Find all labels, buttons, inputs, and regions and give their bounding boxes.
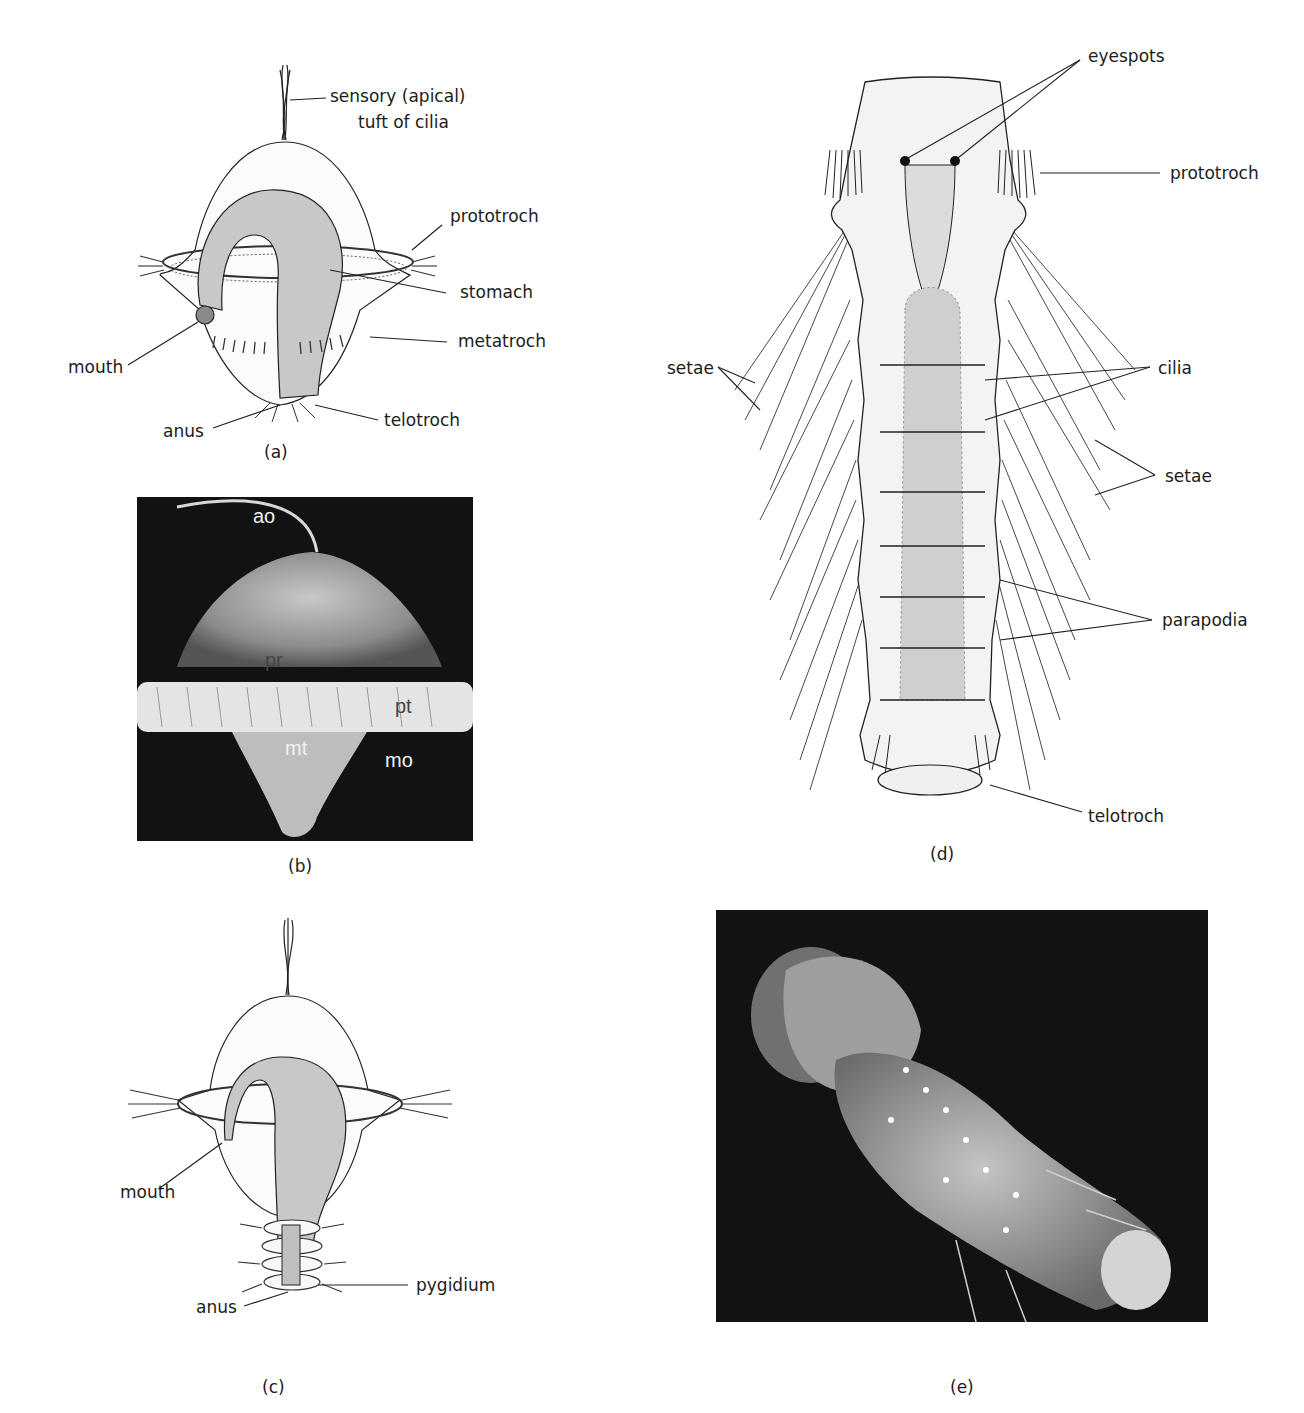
label-telotroch-d: telotroch (1088, 806, 1164, 826)
label-eyespots: eyespots (1088, 46, 1165, 66)
larva-sem-image (716, 910, 1208, 1322)
label-parapodia: parapodia (1162, 610, 1248, 630)
textbook-page: sensory (apical) tuft of cilia prototroc… (0, 0, 1304, 1413)
label-prototroch-d: prototroch (1170, 163, 1259, 183)
label-setae-left: setae (667, 358, 714, 378)
label-setae-right: setae (1165, 466, 1212, 486)
label-cilia: cilia (1158, 358, 1192, 378)
caption-e: (e) (950, 1377, 974, 1397)
caption-d: (d) (930, 844, 954, 864)
panel-e-micrograph (716, 910, 1208, 1322)
